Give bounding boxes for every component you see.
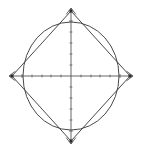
geometry-figure [0,0,143,159]
figure-background [0,0,143,159]
vertex-dot-left [10,74,13,77]
vertex-dot-bottom [69,139,72,142]
vertex-dot-right [128,74,131,77]
vertex-dot-top [69,9,72,12]
figure-container [0,0,143,159]
